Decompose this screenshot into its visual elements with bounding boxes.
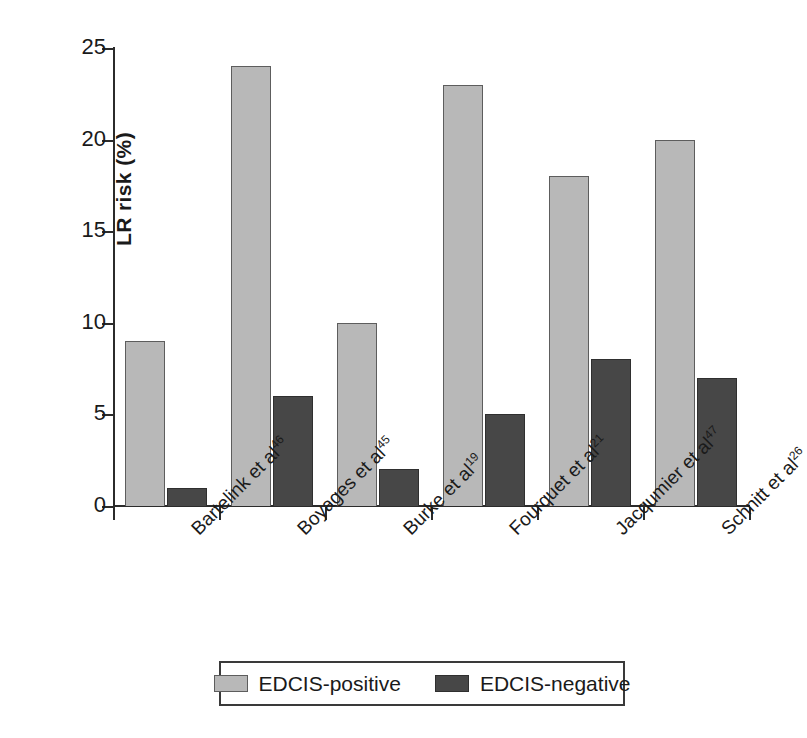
y-tick-label: 20: [82, 127, 106, 151]
y-tick-label: 15: [82, 218, 106, 242]
bar: [231, 66, 271, 506]
legend-label: EDCIS-negative: [480, 673, 631, 695]
bar: [379, 469, 419, 506]
bar: [485, 414, 525, 506]
bar: [443, 85, 483, 506]
legend-item[interactable]: EDCIS-negative: [435, 673, 631, 695]
y-tick-label: 0: [94, 493, 106, 517]
legend-swatch-neg: [435, 675, 469, 692]
y-tick-label: 5: [94, 401, 106, 425]
plot-area: 0510152025: [113, 48, 749, 506]
legend-item[interactable]: EDCIS-positive: [214, 673, 401, 695]
chart-legend: EDCIS-positiveEDCIS-negative: [219, 661, 625, 706]
y-tick-label: 10: [82, 310, 106, 334]
legend-label: EDCIS-positive: [259, 673, 401, 695]
x-tick-mark: [113, 507, 115, 520]
bar: [125, 341, 165, 506]
bar: [167, 488, 207, 506]
legend-swatch-pos: [214, 675, 248, 692]
y-tick-label: 25: [82, 35, 106, 59]
